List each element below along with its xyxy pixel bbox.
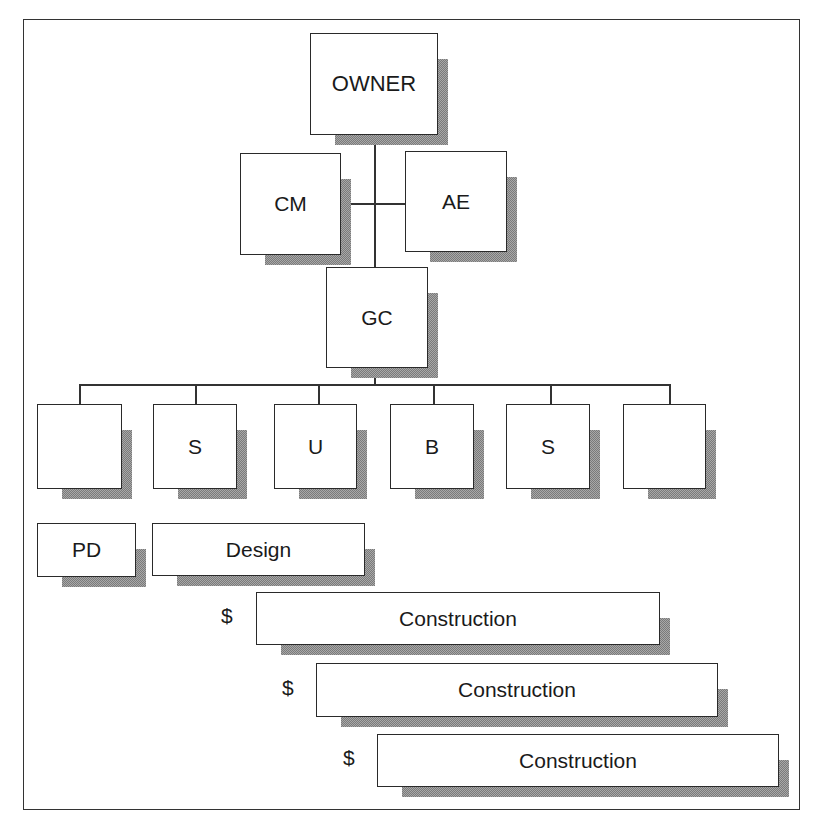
pd-label: PD [72, 538, 101, 562]
cm-box: CM [240, 153, 341, 255]
construction-box-2: Construction [316, 663, 718, 717]
construction-label-1: Construction [399, 607, 517, 631]
gc-box: GC [326, 267, 428, 368]
owner-box: OWNER [310, 33, 438, 135]
sub-box-6 [623, 404, 706, 489]
cost-marker-2: $ [282, 676, 294, 700]
construction-box-1: Construction [256, 592, 660, 645]
cost-marker-1: $ [221, 604, 233, 628]
sub-box-2: S [153, 404, 237, 489]
ae-box: AE [405, 151, 507, 252]
design-label: Design [226, 538, 291, 562]
sub-label-3: U [308, 435, 323, 459]
connector-drop-6 [669, 384, 671, 404]
sub-box-5: S [506, 404, 590, 489]
construction-label-3: Construction [519, 749, 637, 773]
sub-label-5: S [541, 435, 555, 459]
connector-drop-1 [79, 384, 81, 404]
owner-label: OWNER [332, 71, 416, 97]
cm-label: CM [274, 192, 307, 216]
connector-owner-gc [374, 135, 376, 267]
construction-box-3: Construction [377, 734, 779, 787]
pd-box: PD [37, 523, 136, 577]
connector-drop-3 [318, 384, 320, 404]
sub-box-1 [37, 404, 122, 489]
gc-label: GC [361, 306, 393, 330]
construction-label-2: Construction [458, 678, 576, 702]
sub-label-2: S [188, 435, 202, 459]
cost-marker-3: $ [343, 746, 355, 770]
connector-drop-2 [195, 384, 197, 404]
connector-sub-bus [79, 384, 670, 386]
connector-drop-5 [550, 384, 552, 404]
connector-drop-4 [433, 384, 435, 404]
ae-label: AE [442, 190, 470, 214]
sub-box-4: B [390, 404, 474, 489]
design-box: Design [152, 523, 365, 576]
sub-label-4: B [425, 435, 439, 459]
sub-box-3: U [274, 404, 357, 489]
